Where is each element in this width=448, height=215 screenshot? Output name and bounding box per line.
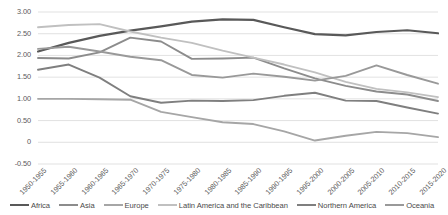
- x-axis: 1950-19551955-19601960-19651965-19701970…: [38, 166, 438, 200]
- x-axis-tick-label: 2005-2010: [356, 166, 387, 197]
- legend-label: Northern America: [318, 201, 376, 210]
- x-axis-tick-label: 1955-1960: [48, 166, 79, 197]
- x-axis-tick-label: 1995-2000: [295, 166, 326, 197]
- legend-swatch-icon: [59, 204, 78, 206]
- legend-item-latin-america-and-the-caribbean[interactable]: Latin America and the Caribbean: [158, 201, 288, 210]
- x-axis-tick-label: 2010-2015: [387, 166, 418, 197]
- x-axis-tick-label: 1965-1970: [110, 166, 141, 197]
- legend-swatch-icon: [158, 204, 177, 206]
- x-axis-tick-label: 2015-2020: [418, 166, 448, 197]
- x-axis-tick-label: 1970-1975: [141, 166, 172, 197]
- legend-item-northern-america[interactable]: Northern America: [297, 201, 376, 210]
- x-axis-tick-label: 1990-1995: [264, 166, 295, 197]
- x-axis-tick-label: 1980-1985: [202, 166, 233, 197]
- y-axis-tick-label: 3.00: [17, 8, 31, 16]
- legend-item-oceania[interactable]: Oceania: [385, 201, 434, 210]
- legend-label: Oceania: [406, 201, 434, 210]
- legend-item-africa[interactable]: Africa: [10, 201, 50, 210]
- legend: AfricaAsiaEuropeLatin America and the Ca…: [0, 198, 444, 212]
- x-axis-tick-label: 1985-1990: [233, 166, 264, 197]
- x-axis-tick-label: 1950-1955: [18, 166, 49, 197]
- y-axis-tick-label: 1.50: [17, 73, 31, 81]
- x-axis-tick-label: 1975-1980: [171, 166, 202, 197]
- y-axis-tick-label: 2.50: [17, 30, 31, 38]
- plot-area: [38, 12, 438, 164]
- y-axis-tick-label: -0.50: [15, 160, 31, 168]
- legend-label: Asia: [80, 201, 95, 210]
- x-axis-tick-label: 1960-1965: [79, 166, 110, 197]
- legend-item-asia[interactable]: Asia: [59, 201, 95, 210]
- series-line-latin-america-and-the-caribbean: [38, 24, 438, 97]
- y-axis-tick-label: 0: [27, 138, 31, 146]
- series-line-europe: [38, 99, 438, 141]
- series-line-asia: [38, 38, 438, 101]
- legend-label: Europe: [125, 201, 149, 210]
- legend-swatch-icon: [10, 204, 29, 206]
- x-axis-tick-label: 2000-2005: [325, 166, 356, 197]
- legend-item-europe[interactable]: Europe: [104, 201, 149, 210]
- legend-swatch-icon: [385, 204, 404, 206]
- y-axis-tick-label: 1.00: [17, 95, 31, 103]
- y-axis-tick-label: 2.00: [17, 51, 31, 59]
- legend-label: Africa: [31, 201, 50, 210]
- legend-swatch-icon: [104, 204, 123, 206]
- y-axis: 3.002.502.001.501.000.500-0.50: [0, 12, 34, 164]
- legend-label: Latin America and the Caribbean: [179, 201, 288, 210]
- series-lines: [38, 12, 438, 164]
- legend-swatch-icon: [297, 204, 316, 206]
- y-axis-tick-label: 0.50: [17, 117, 31, 125]
